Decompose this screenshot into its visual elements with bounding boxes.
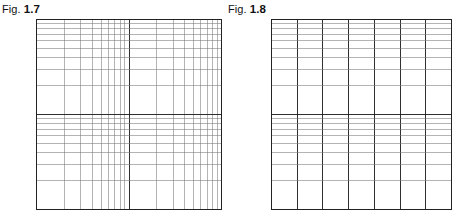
figure-1-8-grid <box>271 19 452 210</box>
figure-1-8-caption-number: 1.8 <box>247 3 266 15</box>
figure-1-8: Fig.1.8 <box>0 0 459 223</box>
figure-1-8-caption: Fig.1.8 <box>228 3 266 15</box>
figure-1-8-caption-word: Fig. <box>228 3 247 15</box>
figure-page: Fig.1.7 Fig.1.8 <box>0 0 459 223</box>
